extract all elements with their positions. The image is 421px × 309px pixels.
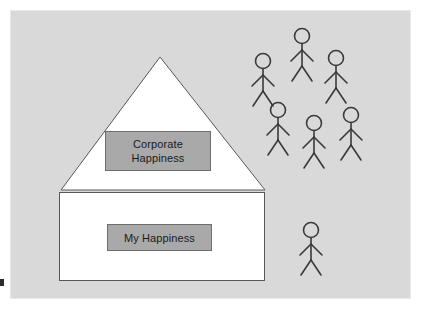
corporate-happiness-label: Corporate Happiness	[132, 137, 185, 165]
corporate-happiness-box[interactable]: Corporate Happiness	[105, 131, 211, 171]
diagram-canvas: Corporate Happiness My Happiness	[0, 0, 421, 309]
my-happiness-box[interactable]: My Happiness	[107, 224, 212, 251]
left-edge-artifact	[0, 279, 4, 286]
my-happiness-label: My Happiness	[124, 231, 195, 245]
